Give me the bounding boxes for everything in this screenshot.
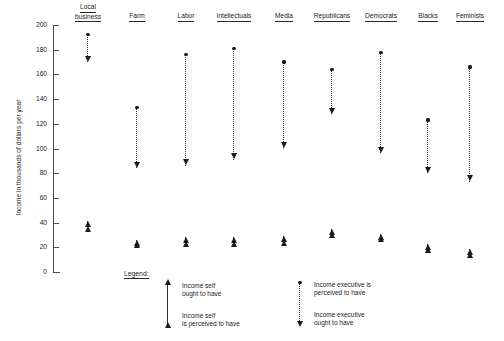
marker-exec-ought: [183, 159, 189, 165]
marker-exec-perceived: [330, 68, 333, 71]
legend-title-text: Legend:: [124, 270, 149, 279]
marker-self-perceived: [425, 247, 431, 253]
y-tick: [53, 272, 59, 273]
marker-self-perceived: [183, 241, 189, 247]
legend-exec-connector: [299, 283, 300, 325]
marker-exec-perceived: [379, 51, 382, 54]
y-tick-label: 180: [21, 46, 47, 53]
legend-self-ought-icon: [165, 279, 171, 285]
marker-exec-perceived: [282, 60, 285, 63]
marker-exec-perceived: [86, 33, 89, 36]
y-tick-label: 60: [21, 194, 47, 201]
y-tick: [53, 25, 59, 26]
executive-connector: [233, 48, 234, 159]
y-tick: [53, 149, 59, 150]
legend-self-connector: [167, 284, 168, 327]
y-tick: [53, 99, 59, 100]
marker-exec-ought: [85, 56, 91, 62]
legend-label-self-perceived: Income selfis perceived to have: [182, 312, 240, 329]
marker-self-perceived: [134, 242, 140, 248]
column-header-feminists: Feminists: [426, 12, 504, 22]
legend-label-line: Income self: [182, 312, 240, 320]
y-axis-label: Income in thousands of dollars per year: [15, 48, 22, 268]
marker-exec-ought: [231, 153, 237, 159]
legend-label-line: ought to have: [182, 290, 221, 298]
legend-label-line: is perceived to have: [182, 320, 240, 328]
y-tick-label: 140: [21, 95, 47, 102]
chart-canvas: Income in thousands of dollars per year …: [0, 0, 504, 341]
legend-label-line: Income self: [182, 282, 221, 290]
marker-exec-perceived: [426, 118, 429, 121]
y-tick-label: 160: [21, 70, 47, 77]
marker-self-perceived: [281, 240, 287, 246]
marker-exec-ought: [329, 108, 335, 114]
marker-self-perceived: [329, 232, 335, 238]
y-tick: [53, 74, 59, 75]
y-tick: [53, 173, 59, 174]
legend-label-line: Income executive: [314, 311, 365, 319]
y-tick: [53, 50, 59, 51]
legend-label-self-ought: Income selfought to have: [182, 282, 221, 299]
marker-self-perceived: [467, 252, 473, 258]
column-header-line: Feminists: [456, 12, 484, 22]
marker-self-perceived: [85, 226, 91, 232]
y-tick-label: 40: [21, 219, 47, 226]
marker-exec-ought: [425, 167, 431, 173]
marker-exec-perceived: [468, 65, 471, 68]
y-tick: [53, 124, 59, 125]
y-tick-label: 20: [21, 243, 47, 250]
legend-label-exec-ought: Income executiveought to have: [314, 311, 365, 328]
executive-connector: [380, 52, 381, 153]
marker-exec-perceived: [184, 53, 187, 56]
marker-self-perceived: [231, 241, 237, 247]
marker-exec-ought: [378, 147, 384, 153]
y-tick-label: 80: [21, 169, 47, 176]
executive-connector: [283, 62, 284, 148]
executive-connector: [185, 55, 186, 166]
marker-exec-perceived: [135, 106, 138, 109]
legend-label-line: Income executive is: [314, 281, 371, 289]
y-tick-label: 0: [21, 268, 47, 275]
marker-exec-ought: [467, 175, 473, 181]
y-tick-label: 120: [21, 120, 47, 127]
legend-label-line: ought to have: [314, 319, 365, 327]
legend-label-line: perceived to have: [314, 289, 371, 297]
marker-exec-ought: [281, 142, 287, 148]
y-tick: [53, 198, 59, 199]
executive-connector: [469, 67, 470, 182]
marker-exec-ought: [134, 162, 140, 168]
y-tick: [53, 247, 59, 248]
marker-self-perceived: [378, 236, 384, 242]
legend-label-exec-perceived: Income executive isperceived to have: [314, 281, 371, 298]
executive-connector: [427, 120, 428, 173]
marker-exec-perceived: [232, 47, 235, 50]
legend-self-perceived-icon: [165, 322, 171, 328]
legend-exec-perceived-icon: [298, 281, 301, 284]
y-tick: [53, 223, 59, 224]
legend-title: Legend:: [124, 270, 149, 277]
y-tick-label: 100: [21, 145, 47, 152]
legend-exec-ought-icon: [297, 321, 303, 327]
executive-connector: [136, 108, 137, 169]
